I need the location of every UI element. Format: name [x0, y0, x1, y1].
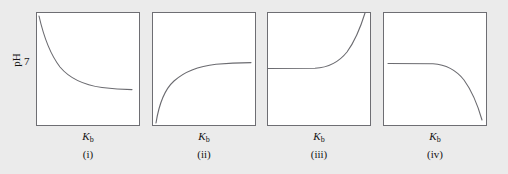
panel-i-caption: (i)	[36, 148, 140, 160]
kb-symbol-ii: K	[198, 130, 205, 142]
kb-symbol-i: K	[82, 130, 89, 142]
panel-iv-caption: (iv)	[383, 148, 487, 160]
curve-path-iii	[267, 13, 365, 69]
panel-i-curve	[36, 12, 140, 126]
curve-path-ii	[156, 63, 251, 123]
panel-ii-caption: (ii)	[152, 148, 256, 160]
panel-ii	[152, 12, 256, 126]
panel-iii-xlabel: Kb	[267, 130, 371, 144]
y-axis-tick-7: 7	[24, 55, 30, 67]
kb-symbol-iii: K	[313, 130, 320, 142]
curve-path-iv	[388, 64, 482, 121]
kb-subscript-iv: b	[437, 135, 441, 144]
panel-i-xlabel: Kb	[36, 130, 140, 144]
panel-iii-caption: (iii)	[267, 148, 371, 160]
panel-iv	[383, 12, 487, 126]
kb-subscript-i: b	[90, 135, 94, 144]
kb-symbol-iv: K	[429, 130, 436, 142]
panel-ii-curve	[152, 12, 256, 126]
panel-iii-curve	[267, 12, 371, 126]
panel-iii	[267, 12, 371, 126]
ph-vs-kb-figure: pH 7 Kb (i) Kb (ii) Kb (iii)	[0, 0, 508, 174]
panel-iv-curve	[383, 12, 487, 126]
panel-iv-xlabel: Kb	[383, 130, 487, 144]
panel-ii-xlabel: Kb	[152, 130, 256, 144]
kb-subscript-ii: b	[206, 135, 210, 144]
panel-i	[36, 12, 140, 126]
curve-path-i	[39, 16, 132, 90]
y-axis-label: pH	[10, 46, 22, 74]
kb-subscript-iii: b	[321, 135, 325, 144]
